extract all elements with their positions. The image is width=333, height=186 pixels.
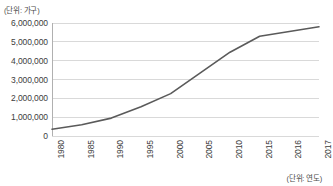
x-tick-label: 1990 (115, 140, 125, 159)
y-tick-label: 6,000,000 (0, 18, 48, 28)
y-tick-label: 4,000,000 (0, 56, 48, 66)
x-tick-label: 2015 (264, 140, 274, 159)
plot-area (52, 23, 319, 136)
y-tick-label: 3,000,000 (0, 75, 48, 85)
x-tick-label: 2016 (293, 140, 303, 159)
x-tick-label: 2000 (175, 140, 185, 159)
data-series-line (52, 23, 319, 136)
y-axis-unit-label: (단위: 가구) (4, 4, 40, 15)
x-tick-label: 2010 (234, 140, 244, 159)
y-tick-label: 5,000,000 (0, 37, 48, 47)
x-tick-label: 2017 (323, 140, 333, 159)
x-tick-label: 1980 (56, 140, 66, 159)
y-tick-label: 0 (0, 131, 48, 141)
x-tick-label: 1995 (145, 140, 155, 159)
x-tick-label: 1985 (86, 140, 96, 159)
y-tick-label: 2,000,000 (0, 93, 48, 103)
x-tick-label: 2005 (204, 140, 214, 159)
y-tick-label: 1,000,000 (0, 112, 48, 122)
x-axis-unit-label: (단위: 연도) (286, 172, 322, 183)
